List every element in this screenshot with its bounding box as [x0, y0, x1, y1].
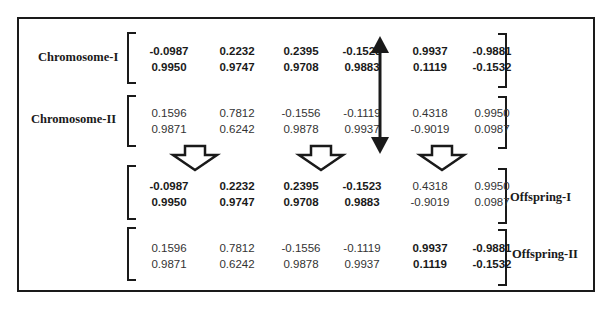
gene-value-bottom: 0.9708	[269, 194, 333, 210]
gene-cell: -0.9881-0.1532	[460, 240, 524, 272]
gene-cell: -0.15560.9878	[269, 240, 333, 272]
gene-value-top: 0.7812	[205, 105, 269, 121]
gene-value-top: -0.0987	[137, 178, 201, 194]
offspring-1-bracket-left	[127, 165, 136, 220]
chromosome-2-bracket-left	[127, 95, 136, 147]
gene-value-top: 0.9950	[460, 105, 524, 121]
gene-value-bottom: -0.9019	[398, 121, 462, 137]
chromosome-1-bracket-left	[127, 32, 136, 84]
gene-cell: -0.15560.9878	[269, 105, 333, 137]
offspring-2-bracket-left	[127, 227, 136, 281]
gene-value-bottom: -0.1532	[460, 59, 524, 75]
gene-cell: 0.23950.9708	[269, 178, 333, 210]
down-arrow-icon	[419, 145, 465, 171]
gene-cell: 0.4318-0.9019	[398, 105, 462, 137]
gene-value-bottom: 0.9950	[137, 59, 201, 75]
gene-value-bottom: 0.0987	[460, 121, 524, 137]
gene-cell: 0.99500.0987	[460, 178, 524, 210]
gene-cell: 0.15960.9871	[137, 240, 201, 272]
gene-value-bottom: 0.9871	[137, 121, 201, 137]
gene-value-bottom: 0.9878	[269, 256, 333, 272]
gene-value-top: 0.7812	[205, 240, 269, 256]
gene-value-bottom: 0.1119	[398, 59, 462, 75]
gene-cell: 0.78120.6242	[205, 105, 269, 137]
gene-value-top: 0.4318	[398, 105, 462, 121]
gene-cell: 0.15960.9871	[137, 105, 201, 137]
gene-value-bottom: 0.6242	[205, 121, 269, 137]
gene-value-bottom: 0.9950	[137, 194, 201, 210]
gene-cell: 0.99370.1119	[398, 240, 462, 272]
gene-value-top: -0.9881	[460, 240, 524, 256]
gene-value-top: -0.9881	[460, 43, 524, 59]
gene-cell: -0.09870.9950	[137, 43, 201, 75]
gene-cell: 0.22320.9747	[205, 43, 269, 75]
gene-value-bottom: -0.1532	[460, 256, 524, 272]
gene-cell: 0.22320.9747	[205, 178, 269, 210]
gene-value-top: 0.9937	[398, 240, 462, 256]
gene-value-bottom: -0.9019	[398, 194, 462, 210]
gene-value-bottom: 0.9878	[269, 121, 333, 137]
gene-value-top: -0.1556	[269, 105, 333, 121]
gene-value-top: 0.1596	[137, 240, 201, 256]
gene-cell: -0.09870.9950	[137, 178, 201, 210]
gene-value-bottom: 0.9747	[205, 194, 269, 210]
gene-value-bottom: 0.0987	[460, 194, 524, 210]
gene-value-top: 0.1596	[137, 105, 201, 121]
chromosome-1-label: Chromosome-I	[38, 50, 118, 65]
gene-value-bottom: 0.9883	[330, 194, 394, 210]
gene-cell: 0.23950.9708	[269, 43, 333, 75]
gene-value-bottom: 0.1119	[398, 256, 462, 272]
gene-value-top: 0.9950	[460, 178, 524, 194]
down-arrow-icon	[172, 145, 218, 171]
gene-cell: 0.99500.0987	[460, 105, 524, 137]
gene-value-top: 0.2395	[269, 43, 333, 59]
gene-value-top: 0.9937	[398, 43, 462, 59]
gene-value-bottom: 0.9747	[205, 59, 269, 75]
gene-cell: -0.11190.9937	[330, 240, 394, 272]
gene-value-top: 0.2395	[269, 178, 333, 194]
gene-value-top: -0.1119	[330, 240, 394, 256]
gene-value-top: -0.1523	[330, 178, 394, 194]
down-arrow-icon	[298, 145, 344, 171]
chromosome-2-label: Chromosome-II	[31, 112, 116, 127]
gene-value-bottom: 0.9937	[330, 256, 394, 272]
gene-value-top: -0.0987	[137, 43, 201, 59]
gene-value-top: 0.2232	[205, 178, 269, 194]
gene-value-top: -0.1556	[269, 240, 333, 256]
gene-value-top: 0.2232	[205, 43, 269, 59]
gene-cell: -0.15230.9883	[330, 178, 394, 210]
gene-value-top: 0.4318	[398, 178, 462, 194]
gene-cell: 0.78120.6242	[205, 240, 269, 272]
gene-value-bottom: 0.6242	[205, 256, 269, 272]
gene-cell: 0.99370.1119	[398, 43, 462, 75]
gene-cell: -0.9881-0.1532	[460, 43, 524, 75]
gene-value-bottom: 0.9871	[137, 256, 201, 272]
gene-cell: 0.4318-0.9019	[398, 178, 462, 210]
crossover-double-arrow-icon	[370, 36, 390, 154]
gene-value-bottom: 0.9708	[269, 59, 333, 75]
